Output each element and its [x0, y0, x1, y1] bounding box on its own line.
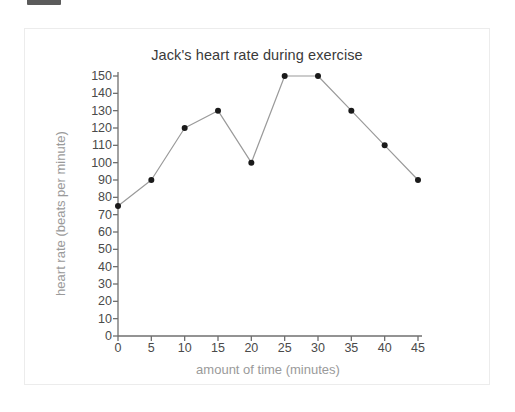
y-tick-label: 10	[98, 312, 112, 326]
y-tick-label: 110	[92, 138, 112, 152]
x-tick-label: 25	[278, 341, 292, 355]
y-tick-label: 0	[105, 329, 112, 343]
y-tick-label: 150	[91, 69, 112, 83]
x-tick-label: 5	[148, 341, 155, 355]
y-tick-label: 50	[98, 242, 112, 256]
data-point	[382, 142, 388, 148]
x-tick-label: 0	[115, 341, 122, 355]
data-point	[248, 160, 254, 166]
y-tick-label: 120	[91, 121, 112, 135]
x-tick-label: 15	[211, 341, 225, 355]
x-tick-label: 20	[244, 341, 258, 355]
y-tick-label: 130	[91, 104, 112, 118]
y-tick-label: 90	[98, 173, 112, 187]
x-tick-label: 30	[311, 341, 325, 355]
x-tick-label: 10	[178, 341, 192, 355]
y-tick-label: 140	[91, 86, 112, 100]
y-tick-label: 70	[98, 208, 112, 222]
y-axis-title: heart rate (beats per minute)	[53, 114, 68, 314]
y-tick-label: 100	[91, 156, 112, 170]
data-point	[315, 73, 321, 79]
x-tick-label: 35	[344, 341, 358, 355]
data-point	[348, 108, 354, 114]
data-point	[115, 203, 121, 209]
y-tick-label: 60	[98, 225, 112, 239]
data-point	[282, 73, 288, 79]
data-point	[182, 125, 188, 131]
y-axis-tick-labels: 0102030405060708090100110120130140150	[82, 0, 112, 412]
y-tick-label: 40	[98, 260, 112, 274]
y-tick-label: 80	[98, 190, 112, 204]
data-point	[415, 177, 421, 183]
data-series	[115, 73, 421, 209]
y-tick-label: 20	[98, 294, 112, 308]
data-point	[148, 177, 154, 183]
x-tick-label: 45	[411, 341, 425, 355]
x-tick-label: 40	[378, 341, 392, 355]
line-chart: 0102030405060708090100110120130140150 am…	[0, 0, 515, 412]
x-axis-title: amount of time (minutes)	[118, 362, 418, 377]
y-tick-label: 30	[98, 277, 112, 291]
data-point	[215, 108, 221, 114]
axes	[113, 72, 422, 341]
